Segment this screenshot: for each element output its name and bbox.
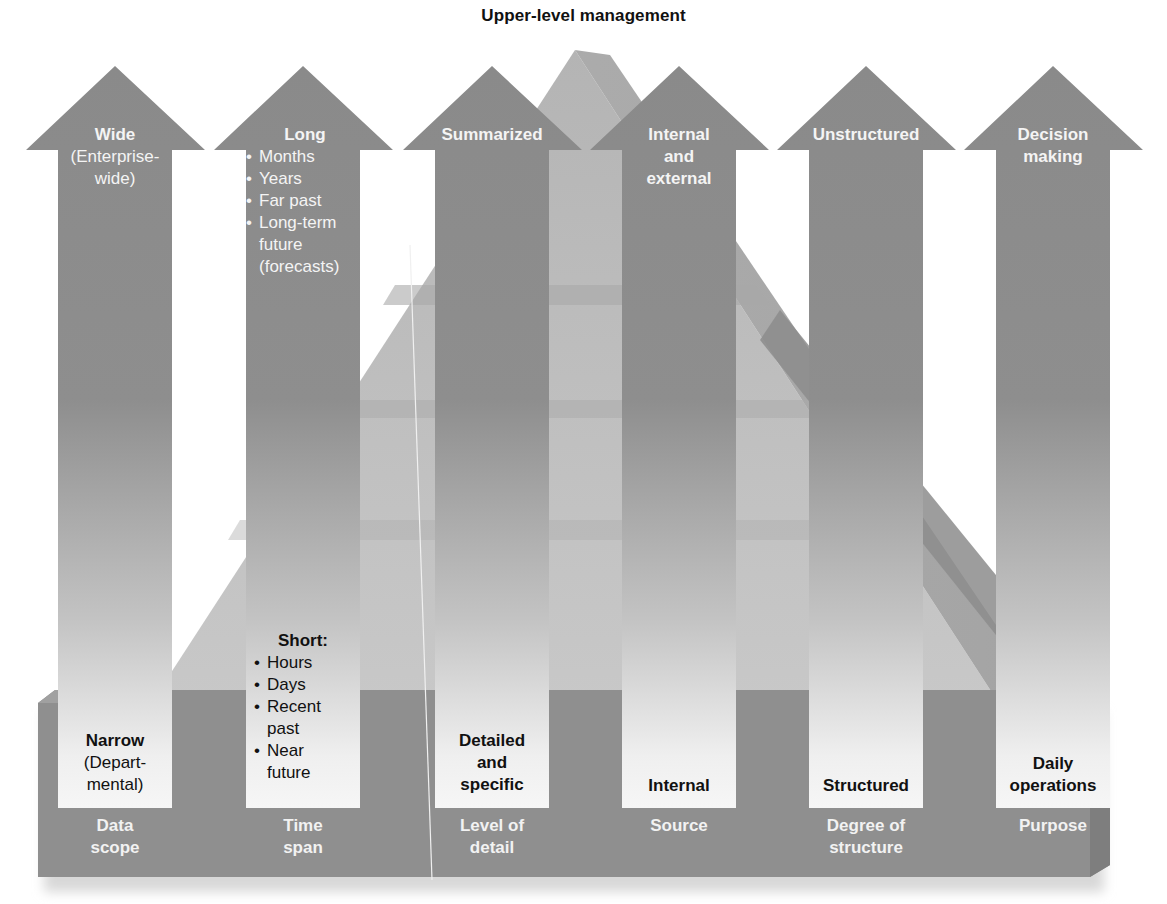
axis-label-line: Data [58,815,172,837]
axis-label-line: span [246,837,360,859]
top-label-source: Internal and external [622,124,736,190]
bottom-label-degree-of-structure: Structured [799,775,933,797]
bottom-label-purpose: Daily operations [986,753,1120,797]
bottom-label-level-of-detail: Detailed and specific [435,730,549,796]
label-short: Short: [246,630,360,652]
label-daily: Daily [986,753,1120,775]
label-structured: Structured [799,775,933,797]
bullet-near: Near [254,740,360,762]
label-internal-bottom: Internal [622,775,736,797]
bottom-label-time-span: Short: Hours Days Recent past Near futur… [246,630,360,784]
top-label-purpose: Decision making [996,124,1110,168]
axis-label-time-span: Time span [246,815,360,859]
axis-label-line: Time [246,815,360,837]
top-label-time-span: Long Months Years Far past Long-term fut… [246,124,364,278]
bottom-label-data-scope: Narrow (Depart- mental) [58,730,172,796]
label-wide: Wide [58,124,172,146]
top-label-level-of-detail: Summarized [415,124,569,146]
axis-label-line: Degree of [809,815,923,837]
bullet-future-cont: future [254,762,360,784]
bullet-long-term: Long-term [246,212,364,234]
bullet-far-past: Far past [246,190,364,212]
axis-label-level-of-detail: Level of detail [435,815,549,859]
axis-label-purpose: Purpose [996,815,1110,837]
label-long: Long [246,124,364,146]
label-and: and [435,752,549,774]
long-bullet-list: Months Years Far past Long-term future (… [246,146,364,278]
diagram-title: Upper-level management [0,6,1167,26]
label-internal-top: Internal [622,124,736,146]
bullet-forecasts-cont: (forecasts) [246,256,364,278]
axis-label-line: structure [809,837,923,859]
base-slab [38,690,1110,877]
top-label-degree-of-structure: Unstructured [789,124,943,146]
axis-label-data-scope: Data scope [58,815,172,859]
axis-label-line: detail [435,837,549,859]
axis-label-degree-of-structure: Degree of structure [809,815,923,859]
bottom-label-source: Internal [622,775,736,797]
bullet-years: Years [246,168,364,190]
bullet-past-cont: past [254,718,360,740]
label-narrow: Narrow [58,730,172,752]
bullet-months: Months [246,146,364,168]
label-summarized: Summarized [415,124,569,146]
label-external: external [622,168,736,190]
short-bullet-list: Hours Days Recent past Near future [246,652,360,784]
label-making: making [996,146,1110,168]
top-label-data-scope: Wide (Enterprise- wide) [58,124,172,190]
axis-label-line: Level of [435,815,549,837]
bullet-recent: Recent [254,696,360,718]
bullet-days: Days [254,674,360,696]
label-and-top: and [622,146,736,168]
label-specific: specific [435,774,549,796]
label-decision: Decision [996,124,1110,146]
label-operations: operations [986,775,1120,797]
management-information-diagram: Upper-level management Wide (Enterprise-… [0,0,1167,904]
label-depart: (Depart- [58,752,172,774]
label-enterprise: (Enterprise- [58,146,172,168]
axis-label-line: Source [622,815,736,837]
axis-label-line: Purpose [996,815,1110,837]
label-wide-paren: wide) [58,168,172,190]
axis-label-source: Source [622,815,736,837]
bullet-hours: Hours [254,652,360,674]
label-detailed: Detailed [435,730,549,752]
label-mental: mental) [58,774,172,796]
axis-label-line: scope [58,837,172,859]
bullet-future-cont: future [246,234,364,256]
label-unstructured: Unstructured [789,124,943,146]
